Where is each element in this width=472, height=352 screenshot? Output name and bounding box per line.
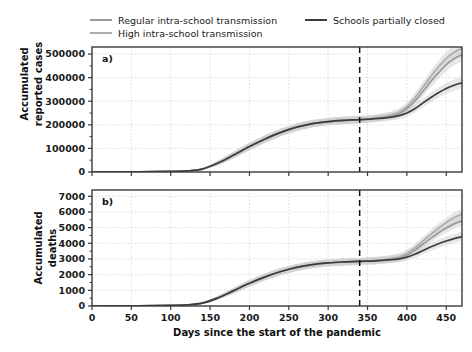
panel-b-xtick-1: 50 [125, 312, 139, 323]
panel-b-ytick-5: 5000 [59, 222, 86, 233]
panel-b-xtick-0: 0 [89, 312, 96, 323]
panel-b-ylabel-line2: deaths [47, 229, 58, 268]
panel-a-ylabel-line1: Accumulated [19, 47, 30, 120]
panel-a-ytick-4: 400000 [45, 72, 85, 83]
legend-label-high: High intra-school transmission [118, 28, 263, 39]
panel-a-ylabel-line2: reported cases [33, 42, 44, 126]
panel-b-xlabel: Days since the start of the pandemic [173, 327, 381, 338]
legend-label-regular: Regular intra-school transmission [118, 15, 277, 26]
panel-a-ytick-2: 200000 [45, 119, 85, 130]
panel-b-xtick-8: 400 [397, 312, 417, 323]
panel-b-ytick-4: 4000 [59, 238, 86, 249]
panel-b-gridlines [92, 190, 462, 306]
panel-b-ytick-6: 6000 [59, 206, 86, 217]
panel-b-xtick-4: 200 [240, 312, 260, 323]
panel-b-ytick-3: 3000 [59, 253, 86, 264]
panel-b: 01000200030004000500060007000 0501001502… [33, 190, 462, 338]
panel-a-ytick-3: 300000 [45, 96, 85, 107]
panel-b-xtick-3: 150 [200, 312, 220, 323]
panel-a: 0100000200000300000400000500000 a) Accum… [19, 42, 462, 178]
panel-a-label: a) [102, 53, 113, 64]
panel-b-xtick-9: 450 [436, 312, 456, 323]
panel-b-ytick-1: 1000 [59, 285, 86, 296]
figure-container: Regular intra-school transmission High i… [0, 0, 472, 352]
panel-b-y-ticklabels: 01000200030004000500060007000 [59, 191, 92, 312]
panel-b-xtick-7: 350 [358, 312, 378, 323]
chart-legend: Regular intra-school transmission High i… [90, 15, 445, 39]
panel-a-ytick-5: 500000 [45, 48, 85, 59]
panel-b-ytick-7: 7000 [59, 191, 86, 202]
panel-b-label: b) [102, 196, 113, 207]
panel-b-ytick-0: 0 [78, 300, 85, 311]
panel-b-xtick-6: 300 [318, 312, 338, 323]
panel-b-xtick-2: 100 [161, 312, 181, 323]
chart-canvas: Regular intra-school transmission High i… [0, 0, 472, 352]
panel-b-xtick-5: 250 [279, 312, 299, 323]
panel-b-frame [92, 190, 462, 306]
panel-a-y-ticklabels: 0100000200000300000400000500000 [45, 48, 92, 177]
legend-label-closed: Schools partially closed [333, 15, 445, 26]
panel-b-ylabel-line1: Accumulated [33, 211, 44, 284]
panel-a-ytick-1: 100000 [45, 143, 85, 154]
panel-b-ytick-2: 2000 [59, 269, 86, 280]
panel-b-x-ticklabels: 050100150200250300350400450 [89, 306, 457, 323]
panel-a-ytick-0: 0 [78, 166, 85, 177]
